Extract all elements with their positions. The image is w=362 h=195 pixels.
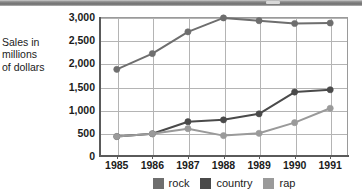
legend-swatch-rock <box>153 178 164 189</box>
x-axis-tick-mark <box>188 156 189 159</box>
x-axis-tick-mark <box>295 156 296 159</box>
chart-screenshot: Sales in millions of dollars 05001,0001,… <box>0 0 362 195</box>
data-point-rap-1991 <box>327 105 333 111</box>
data-point-rap-1986 <box>149 131 155 137</box>
series-country <box>114 87 334 140</box>
legend-item-country: country <box>200 177 252 189</box>
series-rock <box>114 15 334 73</box>
data-point-country-1987 <box>185 119 191 125</box>
x-axis-tick-mark <box>330 156 331 159</box>
data-point-rap-1989 <box>256 130 262 136</box>
data-point-rock-1988 <box>220 15 226 21</box>
x-axis-tick-label: 1991 <box>307 159 353 171</box>
chart-legend: rockcountryrap <box>99 175 349 191</box>
data-point-rock-1991 <box>327 20 333 26</box>
x-axis-tick-mark <box>224 156 225 159</box>
data-point-rap-1990 <box>292 120 298 126</box>
legend-label-country: country <box>216 177 252 189</box>
legend-swatch-country <box>200 178 211 189</box>
data-point-country-1989 <box>256 111 262 117</box>
data-point-rock-1990 <box>292 20 298 26</box>
data-point-rock-1986 <box>149 51 155 57</box>
series-line-country <box>117 90 330 137</box>
x-axis-tick-mark <box>152 156 153 159</box>
data-point-rock-1985 <box>114 66 120 72</box>
legend-item-rock: rock <box>153 177 190 189</box>
legend-swatch-rap <box>263 178 274 189</box>
series-line-rock <box>117 18 330 69</box>
data-point-country-1991 <box>327 87 333 93</box>
data-point-rap-1985 <box>114 133 120 139</box>
data-point-rap-1987 <box>185 126 191 132</box>
data-point-rock-1987 <box>185 29 191 35</box>
x-axis-tick-mark <box>259 156 260 159</box>
data-point-rock-1989 <box>256 18 262 24</box>
data-point-country-1988 <box>220 117 226 123</box>
data-point-country-1990 <box>292 89 298 95</box>
legend-label-rock: rock <box>169 177 190 189</box>
data-point-rap-1988 <box>220 133 226 139</box>
legend-label-rap: rap <box>279 177 295 189</box>
x-axis-tick-mark <box>117 156 118 159</box>
legend-item-rap: rap <box>263 177 295 189</box>
